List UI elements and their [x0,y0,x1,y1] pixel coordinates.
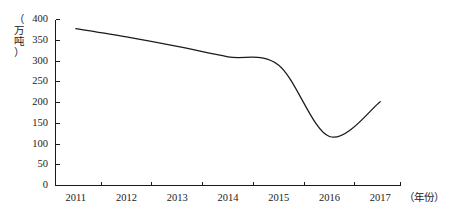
y-axis-ticks [56,20,60,186]
line-chart: （ 万 吨 ） （年份） 050100150200250300350400 20… [0,0,452,218]
data-series-line [76,29,380,138]
x-axis-ticks [56,182,401,186]
plot-area [0,0,452,218]
